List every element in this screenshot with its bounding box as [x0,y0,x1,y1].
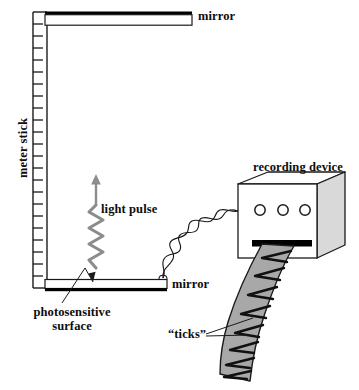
label-light-pulse: light pulse [101,202,157,216]
recording-device-knobs[interactable] [255,205,310,215]
label-recording-device: recording device [253,160,343,174]
meter-stick-ticks [33,24,43,276]
label-photosensitive-line2: surface [17,319,127,333]
label-mirror-bottom: mirror [172,277,209,291]
paper-tape [220,244,294,381]
meter-stick [33,12,47,288]
label-mirror-top: mirror [198,9,235,23]
label-photosensitive-surface: photosensitive surface [17,305,127,333]
diagram-canvas: mirror mirror light pulse recording devi… [0,0,359,390]
label-photosensitive-line1: photosensitive [17,305,127,319]
twisted-cable [159,210,238,279]
label-meter-stick: meter stick [16,106,30,190]
label-ticks: “ticks” [168,327,206,341]
mirror-bottom [45,280,167,292]
recording-device[interactable] [238,172,345,258]
light-pulse-arrow [89,174,103,268]
mirror-top [45,12,192,26]
